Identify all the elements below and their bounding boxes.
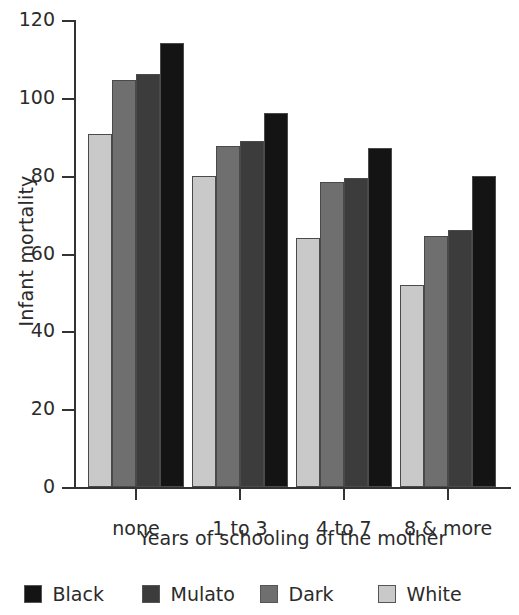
chart-legend: BlackMulatoDarkWhite [0,578,519,610]
legend-swatch-icon [142,585,160,603]
legend-swatch-icon [24,585,42,603]
x-axis-title: Years of schooling of the mother [74,527,511,549]
bar-black-1-to-3[interactable] [264,113,288,487]
legend-item-mulato[interactable]: Mulato [142,583,260,605]
legend-label: Mulato [171,583,235,605]
x-axis-tick [239,488,241,500]
legend-item-dark[interactable]: Dark [260,583,378,605]
legend-swatch-icon [260,585,278,603]
y-axis-tick-label: 20 [31,397,55,419]
y-axis-tick-label: 100 [19,86,55,108]
y-axis-tick: 100 [62,98,74,100]
bar-white-8-more[interactable] [400,285,424,487]
bar-white-none[interactable] [88,134,112,487]
infant-mortality-bar-chart: Infant mortality 020406080100120 none1 t… [0,0,519,615]
y-axis-tick-label: 120 [19,8,55,30]
y-axis-tick: 60 [62,254,74,256]
x-axis-line [74,487,511,489]
bar-dark-1-to-3[interactable] [216,146,240,487]
y-axis-tick-label: 40 [31,319,55,341]
legend-label: Dark [289,583,334,605]
legend-swatch-icon [378,585,396,603]
y-axis-tick: 40 [62,331,74,333]
bar-dark-none[interactable] [112,80,136,487]
x-axis-tick [447,488,449,500]
x-axis-tick [343,488,345,500]
legend-item-black[interactable]: Black [24,583,142,605]
bar-dark-8-more[interactable] [424,236,448,487]
y-axis-tick-label: 0 [43,475,55,497]
bar-mulato-none[interactable] [136,74,160,487]
y-axis-tick: 80 [62,176,74,178]
y-axis-tick: 20 [62,409,74,411]
bar-black-4-to-7[interactable] [368,148,392,487]
legend-label: Black [53,583,104,605]
x-axis-tick [135,488,137,500]
y-axis-tick: 120 [62,20,74,22]
y-axis-line [74,20,76,488]
bar-black-8-more[interactable] [472,176,496,487]
bar-mulato-1-to-3[interactable] [240,141,264,487]
bar-mulato-8-more[interactable] [448,230,472,487]
bar-dark-4-to-7[interactable] [320,182,344,487]
bar-black-none[interactable] [160,43,184,487]
bar-white-4-to-7[interactable] [296,238,320,487]
legend-label: White [407,583,462,605]
y-axis-tick-label: 80 [31,164,55,186]
bar-mulato-4-to-7[interactable] [344,178,368,487]
y-axis-tick: 0 [62,487,74,489]
bar-white-1-to-3[interactable] [192,176,216,487]
plot-area: 020406080100120 none1 to 34 to 78 & more [74,20,511,487]
y-axis-tick-label: 60 [31,242,55,264]
legend-item-white[interactable]: White [378,583,496,605]
